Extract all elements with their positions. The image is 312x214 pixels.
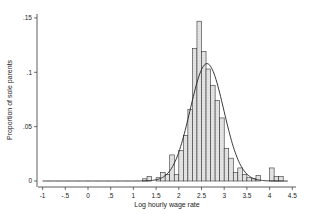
histogram-bar (211, 85, 216, 181)
y-tick-label: .1 (27, 69, 33, 76)
histogram-bar (202, 52, 207, 181)
histogram-bar (192, 48, 197, 181)
histogram-bar (224, 148, 229, 181)
histogram-bar (279, 177, 284, 181)
histogram-bar (179, 151, 184, 181)
x-tick-label: 3.5 (242, 192, 251, 199)
histogram-bar (220, 118, 225, 181)
x-tick-label: -1 (40, 192, 46, 199)
x-tick-label: 1.5 (152, 192, 161, 199)
histogram-bar (183, 135, 188, 181)
x-tick-label: 2.5 (197, 192, 206, 199)
x-tick-label: 0 (86, 192, 90, 199)
histogram-bar (270, 168, 275, 181)
x-tick-label: 4.5 (288, 192, 297, 199)
histogram-bar (238, 168, 243, 181)
y-axis-ticks: 0.05.1.15 (23, 14, 37, 184)
normal-density-curve (43, 64, 288, 181)
x-tick-label: 1 (132, 192, 136, 199)
histogram-bars (142, 21, 283, 181)
histogram-bar (242, 174, 247, 181)
histogram-bar (274, 177, 279, 181)
histogram-bar (215, 101, 220, 181)
x-axis-ticks: -1-.50.511.522.533.544.5 (40, 187, 297, 199)
y-axis-title: Proportion of sole parents (6, 59, 14, 140)
y-tick-label: .05 (23, 123, 32, 130)
y-tick-label: .15 (23, 14, 32, 21)
histogram-bar (247, 178, 252, 181)
histogram-bar (197, 21, 202, 181)
histogram-bar (229, 158, 234, 181)
histogram-bar (174, 174, 179, 181)
y-tick-label: 0 (28, 177, 32, 184)
histogram-bar (233, 172, 238, 181)
histogram-chart: 0.05.1.15 -1-.50.511.522.533.544.5 Log h… (0, 0, 312, 214)
x-tick-label: 2 (177, 192, 181, 199)
x-tick-label: 3 (222, 192, 226, 199)
x-tick-label: -.5 (62, 192, 70, 199)
x-tick-label: .5 (108, 192, 114, 199)
x-tick-label: 4 (268, 192, 272, 199)
histogram-bar (188, 109, 193, 181)
x-axis-title: Log hourly wage rate (134, 201, 199, 209)
histogram-bar (206, 69, 211, 181)
